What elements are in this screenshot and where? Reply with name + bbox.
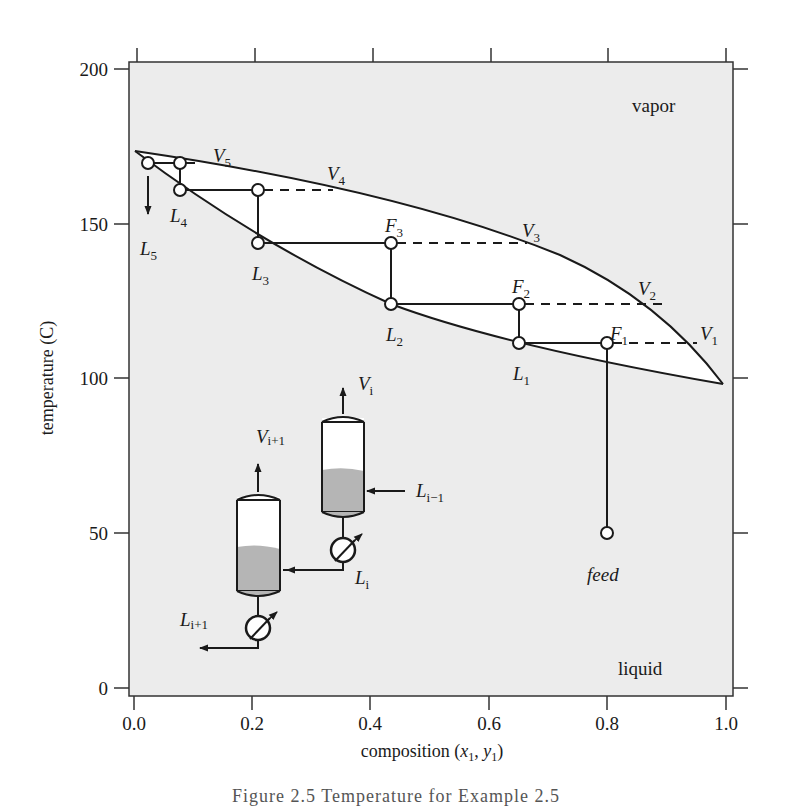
point-L5-stage bbox=[142, 157, 154, 169]
point-F3 bbox=[385, 237, 397, 249]
phase-diagram-figure: 200 150 100 50 0 0.0 0.2 0.4 0.6 0.8 1.0… bbox=[0, 0, 792, 806]
point-L4 bbox=[174, 184, 186, 196]
x-axis-label: composition (x1, y1) bbox=[361, 741, 504, 764]
xtick-label: 0.4 bbox=[358, 713, 382, 734]
xtick-label: 0.0 bbox=[122, 713, 146, 734]
liquid-region-label: liquid bbox=[618, 658, 663, 679]
ytick-label: 0 bbox=[99, 678, 109, 699]
point-V5-stage bbox=[174, 157, 186, 169]
ytick-label: 150 bbox=[80, 214, 109, 235]
ytick-label: 200 bbox=[80, 59, 109, 80]
xtick-label: 0.8 bbox=[595, 713, 619, 734]
top-ticks bbox=[137, 48, 726, 62]
y-axis-label: temperature (C) bbox=[37, 321, 58, 435]
right-ticks bbox=[733, 69, 748, 688]
figure-caption: Figure 2.5 Temperature for Example 2.5 bbox=[0, 786, 792, 806]
vapor-region-label: vapor bbox=[632, 95, 676, 116]
flash-drum-i-plus-1 bbox=[237, 495, 280, 596]
feed-label: feed bbox=[587, 564, 619, 585]
point-F4 bbox=[252, 184, 264, 196]
point-L1 bbox=[513, 337, 525, 349]
left-ticks bbox=[114, 69, 129, 688]
flash-drum-i bbox=[322, 417, 364, 517]
point-L3 bbox=[252, 237, 264, 249]
bottom-ticks bbox=[134, 696, 726, 710]
point-feed bbox=[601, 527, 613, 539]
xtick-label: 0.2 bbox=[240, 713, 264, 734]
ytick-label: 100 bbox=[80, 368, 109, 389]
point-L2 bbox=[385, 298, 397, 310]
ytick-label: 50 bbox=[89, 523, 108, 544]
xtick-label: 0.6 bbox=[477, 713, 501, 734]
xtick-label: 1.0 bbox=[714, 713, 738, 734]
